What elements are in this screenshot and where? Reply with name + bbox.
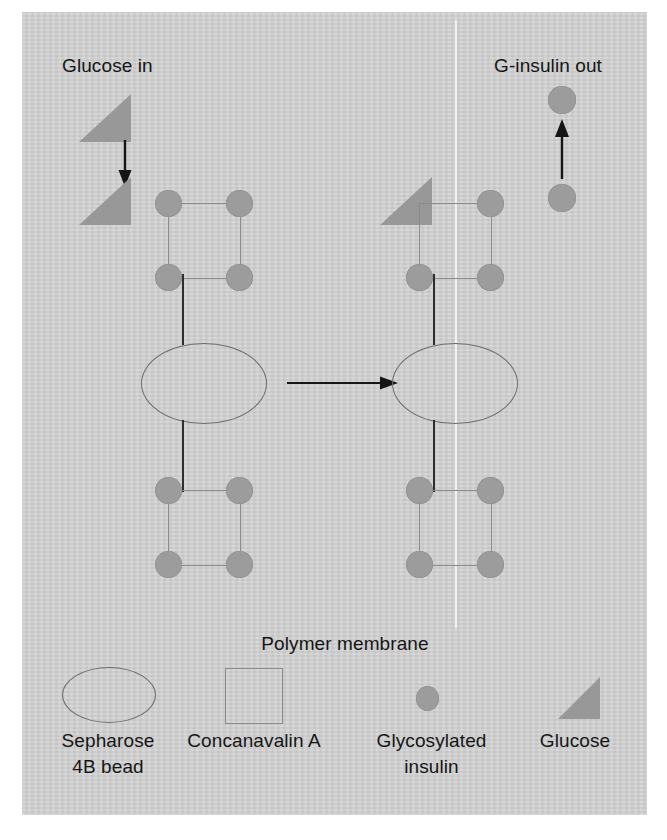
sepharose-4b-bead-right [392, 343, 518, 424]
arrow-g-insulin-out [547, 117, 577, 179]
glycosylated-insulin-released-inside [548, 184, 576, 212]
glycosylated-insulin-right-bottom-2 [477, 477, 504, 504]
glucose-triangle-at-membrane [79, 177, 131, 225]
diagram-panel: Glucose in G-insulin out [22, 12, 647, 815]
arrow-reaction [287, 372, 399, 394]
glycosylated-insulin-released-outside [548, 86, 576, 114]
glycosylated-insulin-left-bottom-2 [226, 477, 253, 504]
legend-label-glucose: Glucose [520, 730, 630, 752]
linker-left-upper [182, 274, 184, 345]
glycosylated-insulin-left-top-1 [155, 190, 182, 217]
legend-swatch-concanavalin-a [225, 668, 283, 724]
sepharose-4b-bead-left [141, 343, 267, 424]
figure-root: Glucose in G-insulin out [0, 0, 667, 840]
glycosylated-insulin-left-top-4 [226, 264, 253, 291]
legend-label-sepharose-bead-line1: Sepharose [43, 730, 173, 752]
glycosylated-insulin-left-top-3 [155, 264, 182, 291]
glycosylated-insulin-left-bottom-3 [155, 551, 182, 578]
glucose-triangle-incoming [79, 94, 131, 142]
glycosylated-insulin-right-top-3 [406, 264, 433, 291]
glycosylated-insulin-right-bottom-4 [477, 551, 504, 578]
legend-label-sepharose-bead-line2: 4B bead [43, 756, 173, 778]
legend-swatch-sepharose-bead [62, 667, 156, 723]
legend-swatch-glycosylated-insulin [416, 686, 439, 711]
legend-label-glycosylated-insulin-line2: insulin [354, 756, 509, 778]
glycosylated-insulin-right-bottom-1 [406, 477, 433, 504]
label-glucose-in: Glucose in [62, 55, 153, 77]
linker-left-lower [182, 420, 184, 492]
glycosylated-insulin-right-top-2 [477, 190, 504, 217]
label-polymer-membrane: Polymer membrane [225, 633, 465, 655]
glycosylated-insulin-left-top-2 [226, 190, 253, 217]
linker-right-upper [433, 274, 435, 345]
legend-label-concanavalin-a: Concanavalin A [164, 730, 344, 752]
glycosylated-insulin-right-bottom-3 [406, 551, 433, 578]
linker-right-lower [433, 420, 435, 492]
legend-label-glycosylated-insulin-line1: Glycosylated [354, 730, 509, 752]
label-g-insulin-out: G-insulin out [494, 55, 602, 77]
glycosylated-insulin-left-bottom-1 [155, 477, 182, 504]
glycosylated-insulin-right-top-4 [477, 264, 504, 291]
legend-swatch-glucose [558, 677, 600, 719]
glycosylated-insulin-left-bottom-4 [226, 551, 253, 578]
